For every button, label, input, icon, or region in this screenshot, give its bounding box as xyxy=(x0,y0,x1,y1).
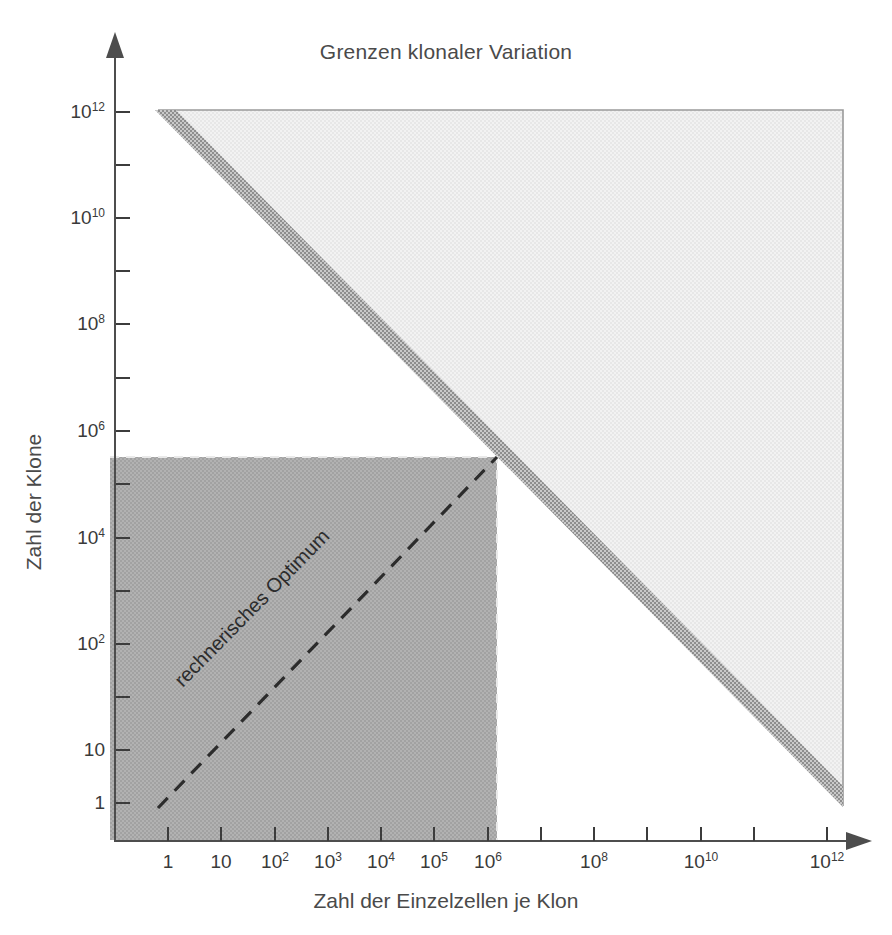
x-tick-mark xyxy=(327,827,329,841)
y-tick-mark xyxy=(116,164,130,166)
plot-area: 10121010108106104102101 1101021031041051… xyxy=(0,0,892,935)
y-tick-mark xyxy=(116,802,130,804)
x-axis-title: Zahl der Einzelzellen je Klon xyxy=(0,889,892,913)
y-tick-label: 106 xyxy=(5,420,105,442)
y-tick-mark xyxy=(116,111,130,113)
x-tick-mark xyxy=(540,827,542,841)
y-tick-mark xyxy=(116,430,130,432)
x-tick-mark xyxy=(753,827,755,841)
x-tick-label: 102 xyxy=(261,851,289,873)
y-tick-label: 108 xyxy=(5,313,105,335)
y-tick-mark xyxy=(116,749,130,751)
y-tick-mark xyxy=(116,483,130,485)
x-tick-mark xyxy=(700,827,702,841)
y-tick-label: 1 xyxy=(5,792,105,814)
y-axis-title: Zahl der Klone xyxy=(22,382,46,622)
y-tick-label: 1012 xyxy=(5,101,105,123)
x-tick-mark xyxy=(220,827,222,841)
x-tick-mark xyxy=(380,827,382,841)
y-axis-line xyxy=(114,52,116,842)
y-tick-mark xyxy=(116,537,130,539)
y-tick-mark xyxy=(116,323,130,325)
x-tick-label: 1012 xyxy=(810,851,845,873)
chart-container: Grenzen klonaler Variation xyxy=(0,0,892,935)
x-tick-label: 10 xyxy=(210,851,231,873)
x-tick-label: 105 xyxy=(420,851,448,873)
x-tick-label: 1 xyxy=(163,851,174,873)
x-tick-mark xyxy=(433,827,435,841)
x-tick-mark xyxy=(487,827,489,841)
y-tick-mark xyxy=(116,270,130,272)
y-tick-label: 104 xyxy=(5,527,105,549)
y-axis-arrow-icon xyxy=(106,32,124,58)
x-tick-label: 1010 xyxy=(684,851,719,873)
x-tick-label: 106 xyxy=(474,851,502,873)
x-tick-label: 103 xyxy=(314,851,342,873)
y-tick-mark xyxy=(116,696,130,698)
x-tick-mark xyxy=(593,827,595,841)
x-tick-mark xyxy=(826,827,828,841)
x-axis-line xyxy=(114,840,858,842)
x-tick-label: 108 xyxy=(580,851,608,873)
y-tick-label: 1010 xyxy=(5,207,105,229)
y-tick-mark xyxy=(116,377,130,379)
y-tick-label: 10 xyxy=(5,739,105,761)
x-tick-mark xyxy=(167,827,169,841)
x-tick-label: 104 xyxy=(367,851,395,873)
y-tick-mark xyxy=(116,643,130,645)
y-tick-label: 102 xyxy=(5,633,105,655)
y-tick-mark xyxy=(116,217,130,219)
x-axis-arrow-icon xyxy=(846,832,872,850)
x-tick-mark xyxy=(646,827,648,841)
y-tick-mark xyxy=(116,590,130,592)
x-tick-mark xyxy=(274,827,276,841)
